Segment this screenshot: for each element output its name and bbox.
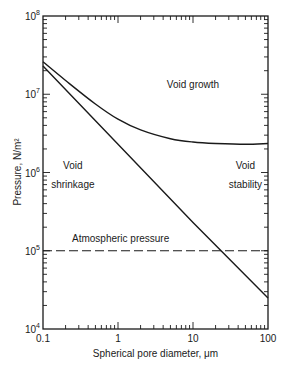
y-axis-title: Pressure, N/m² — [12, 138, 23, 206]
y-tick-label: 108 — [25, 9, 40, 22]
x-tick-label: 1 — [115, 333, 121, 344]
pressure-vs-pore-diameter-chart: 0.1110100108107106105104 Void growthVoid… — [0, 0, 283, 365]
x-axis-title: Spherical pore diameter, μm — [93, 348, 218, 359]
plot-border — [43, 16, 268, 329]
x-tick-label: 10 — [187, 333, 199, 344]
tick-labels: 0.1110100108107106105104 — [25, 9, 277, 344]
y-tick-label: 106 — [25, 166, 40, 179]
annotation: Void — [236, 160, 255, 171]
annotation: Void growth — [167, 79, 219, 90]
plot-frame — [43, 16, 268, 329]
x-tick-label: 100 — [260, 333, 277, 344]
axis-ticks — [43, 16, 268, 329]
y-tick-label: 107 — [25, 87, 40, 100]
y-tick-label: 105 — [25, 244, 40, 257]
series-0 — [43, 62, 268, 144]
region-annotations: Void growthVoidshrinkageVoidstabilityAtm… — [51, 79, 262, 244]
annotation: Void — [63, 160, 82, 171]
annotation: stability — [229, 179, 262, 190]
annotation: Atmospheric pressure — [72, 233, 170, 244]
x-tick-label: 0.1 — [36, 333, 50, 344]
annotation: shrinkage — [51, 179, 95, 190]
